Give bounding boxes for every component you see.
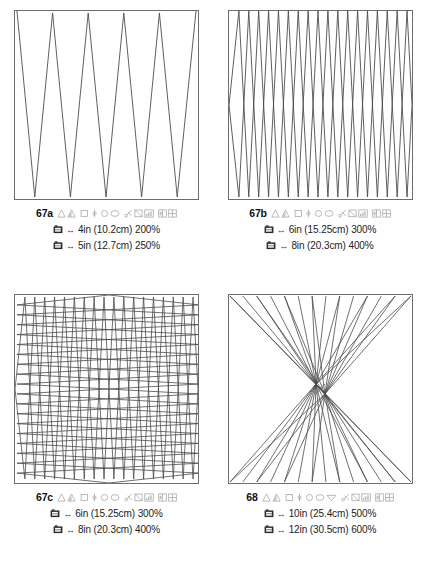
swatch-caption-67a: 67a — [0, 207, 213, 251]
size-spec-text: 12in (30.5cm) 600% — [289, 524, 377, 535]
width-arrow-icon: ↔ — [63, 509, 71, 519]
width-arrow-icon: ↔ — [277, 509, 285, 519]
pattern-id-label: 67b — [249, 207, 267, 219]
flag-icon — [134, 493, 143, 502]
hoop-icon — [266, 241, 276, 250]
flag-icon — [134, 209, 143, 218]
oval-outline-icon — [315, 493, 325, 502]
swatch-preview-67b — [228, 10, 413, 200]
pattern-id-label: 67c — [36, 491, 53, 503]
oval-outline-icon — [110, 209, 120, 218]
radial-hourglass-pattern-graphic — [229, 295, 412, 483]
swatch-sheet: 67a — [0, 0, 427, 568]
id-row-67b: 67b — [213, 207, 427, 219]
panel-split-icon — [158, 493, 167, 502]
panel-split-icon — [375, 493, 384, 502]
size-spec-text: 5in (12.7cm) 250% — [78, 240, 160, 251]
capability-icon-row — [271, 209, 391, 218]
hoop-icon — [264, 525, 274, 534]
zigzag-pattern-graphic — [15, 11, 198, 199]
square-outline-icon — [80, 493, 89, 502]
panel-split-icon — [158, 209, 167, 218]
hoop-icon — [53, 225, 63, 234]
width-arrow-icon: ↔ — [277, 525, 285, 535]
id-row-67a: 67a — [0, 207, 213, 219]
needle-icon — [295, 493, 304, 502]
size-spec-line: ↔ 6in (15.25cm) 300% — [50, 508, 163, 519]
panel-split-icon — [372, 209, 381, 218]
size-spec-text: 4in (10.2cm) 200% — [78, 224, 160, 235]
hoop-icon — [53, 525, 63, 534]
chart-bars-icon — [358, 209, 368, 218]
triangle-outline-icon — [271, 209, 280, 218]
width-arrow-icon: ↔ — [66, 525, 74, 535]
size-spec-text: 8in (20.3cm) 400% — [78, 524, 160, 535]
grid-four-icon — [168, 493, 177, 502]
capability-icon-row — [262, 493, 394, 502]
grid-four-icon — [385, 493, 394, 502]
swatch-preview-68 — [228, 294, 413, 484]
size-spec-line: ↔ 5in (12.7cm) 250% — [53, 240, 160, 251]
capability-icon-row — [57, 209, 177, 218]
needle-icon — [90, 209, 99, 218]
grid-four-icon — [382, 209, 391, 218]
size-spec-text: 6in (15.25cm) 300% — [75, 508, 163, 519]
triangle-shaded-icon — [67, 209, 76, 218]
swatch-caption-68: 68 — [213, 491, 427, 535]
id-row-67c: 67c — [0, 491, 213, 503]
pattern-id-label: 68 — [246, 491, 257, 503]
circle-outline-icon — [100, 493, 109, 502]
hoop-icon — [53, 241, 63, 250]
triangle-down-icon — [326, 493, 337, 502]
oval-outline-icon — [110, 493, 120, 502]
chart-bars-icon — [361, 493, 371, 502]
crosshatch-grid-pattern-graphic — [15, 295, 198, 483]
pattern-panel-67c: 67c — [0, 284, 213, 568]
flag-icon — [351, 493, 360, 502]
size-spec-line: ↔ 12in (30.5cm) 600% — [264, 524, 377, 535]
hoop-icon — [264, 509, 274, 518]
needle-icon — [304, 209, 313, 218]
hoop-icon — [264, 225, 274, 234]
triangle-outline-icon — [57, 493, 66, 502]
hoop-icon — [50, 509, 60, 518]
circle-outline-icon — [314, 209, 323, 218]
triangle-shaded-icon — [67, 493, 76, 502]
oval-outline-icon — [324, 209, 334, 218]
circle-outline-icon — [305, 493, 314, 502]
flag-icon — [348, 209, 357, 218]
size-spec-text: 6in (15.25cm) 300% — [289, 224, 377, 235]
width-arrow-icon: ↔ — [66, 225, 74, 235]
pattern-panel-67a: 67a — [0, 0, 213, 284]
square-outline-icon — [80, 209, 89, 218]
width-arrow-icon: ↔ — [277, 225, 285, 235]
capability-icon-row — [57, 493, 177, 502]
swatch-preview-67a — [14, 10, 199, 200]
size-spec-text: 10in (25.4cm) 500% — [289, 508, 377, 519]
swatch-caption-67b: 67b — [213, 207, 427, 251]
scissors-icon — [338, 209, 347, 218]
width-arrow-icon: ↔ — [279, 241, 287, 251]
width-arrow-icon: ↔ — [66, 241, 74, 251]
triangle-shaded-icon — [281, 209, 290, 218]
pattern-id-label: 67a — [36, 207, 53, 219]
pattern-panel-68: 68 — [213, 284, 427, 568]
diamond-lattice-pattern-graphic — [229, 11, 412, 199]
scissors-icon — [124, 493, 133, 502]
grid-four-icon — [168, 209, 177, 218]
triangle-shaded-icon — [272, 493, 281, 502]
size-spec-line: ↔ 4in (10.2cm) 200% — [53, 224, 160, 235]
size-spec-line: ↔ 8in (20.3cm) 400% — [53, 524, 160, 535]
pattern-panel-67b: 67b — [213, 0, 427, 284]
size-spec-line: ↔ 10in (25.4cm) 500% — [264, 508, 377, 519]
square-outline-icon — [294, 209, 303, 218]
square-outline-icon — [285, 493, 294, 502]
triangle-outline-icon — [262, 493, 271, 502]
circle-outline-icon — [100, 209, 109, 218]
size-spec-line: ↔ 6in (15.25cm) 300% — [264, 224, 377, 235]
size-spec-text: 8in (20.3cm) 400% — [291, 240, 373, 251]
scissors-icon — [124, 209, 133, 218]
swatch-preview-67c — [14, 294, 199, 484]
scissors-icon — [341, 493, 350, 502]
chart-bars-icon — [144, 209, 154, 218]
